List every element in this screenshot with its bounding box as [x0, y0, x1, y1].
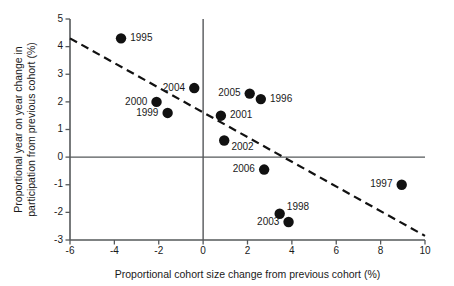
- x-tick-label: 0: [200, 245, 206, 256]
- data-point-1997[interactable]: [397, 180, 407, 190]
- data-point-2003[interactable]: [283, 217, 293, 227]
- x-axis-title: Proportional cohort size change from pre…: [115, 268, 381, 280]
- y-tick-label: 2: [57, 96, 63, 107]
- data-point-label-2003: 2003: [257, 216, 280, 227]
- x-tick-label: 8: [378, 245, 384, 256]
- x-tick-label: 10: [419, 245, 431, 256]
- x-tick-label: 4: [289, 245, 295, 256]
- data-point-label-1998: 1998: [287, 201, 310, 212]
- data-point-label-2001: 2001: [230, 109, 253, 120]
- data-point-1996[interactable]: [256, 94, 266, 104]
- data-point-label-2004: 2004: [163, 82, 186, 93]
- scatter-chart-figure: 543210-1-2-3-6-4-20246810199520001999200…: [0, 0, 454, 286]
- y-tick-label: 4: [57, 40, 63, 51]
- data-point-label-2002: 2002: [231, 141, 254, 152]
- data-point-label-1995: 1995: [130, 32, 153, 43]
- data-point-1999[interactable]: [162, 108, 172, 118]
- trend-line: [70, 38, 425, 236]
- data-point-2001[interactable]: [216, 110, 226, 120]
- data-point-2005[interactable]: [245, 88, 255, 98]
- data-point-label-1997: 1997: [370, 178, 393, 189]
- data-point-2004[interactable]: [189, 83, 199, 93]
- y-tick-label: -3: [54, 234, 63, 245]
- y-axis-title-line: participation from previous cohort (%): [25, 42, 37, 217]
- y-tick-label: 3: [57, 68, 63, 79]
- y-tick-label: 1: [57, 123, 63, 134]
- data-point-label-1999: 1999: [136, 107, 159, 118]
- x-tick-label: 6: [333, 245, 339, 256]
- data-point-label-2006: 2006: [233, 163, 256, 174]
- data-point-label-2005: 2005: [218, 87, 241, 98]
- data-point-1995[interactable]: [116, 33, 126, 43]
- x-tick-label: -2: [154, 245, 163, 256]
- x-tick-label: -6: [66, 245, 75, 256]
- y-tick-label: -2: [54, 206, 63, 217]
- data-point-label-2000: 2000: [125, 96, 148, 107]
- y-tick-label: 0: [57, 151, 63, 162]
- data-point-2006[interactable]: [259, 164, 269, 174]
- y-axis-title: Proportional year on year change inparti…: [12, 42, 36, 217]
- y-axis-title-line: Proportional year on year change in: [12, 46, 24, 213]
- y-tick-label: 5: [57, 13, 63, 24]
- data-point-2002[interactable]: [219, 135, 229, 145]
- y-tick-label: -1: [54, 178, 63, 189]
- x-tick-label: 2: [245, 245, 251, 256]
- data-point-2000[interactable]: [151, 97, 161, 107]
- data-point-label-1996: 1996: [270, 93, 293, 104]
- chart-canvas: 543210-1-2-3-6-4-20246810199520001999200…: [0, 0, 454, 286]
- x-tick-label: -4: [110, 245, 119, 256]
